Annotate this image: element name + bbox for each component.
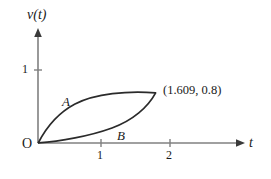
y-axis-label: v(t) xyxy=(27,8,46,22)
x-axis-label: t xyxy=(249,136,253,150)
figure-container: v(t) t O 1 1 2 A B (1.609, 0.8) xyxy=(0,0,271,179)
y-axis xyxy=(34,28,42,143)
y-axis-arrow-icon xyxy=(34,28,42,37)
y-tick-label-1: 1 xyxy=(22,63,28,75)
plot-svg xyxy=(0,0,271,179)
x-axis xyxy=(38,139,245,147)
curve-a xyxy=(39,92,156,142)
point-annotation: (1.609, 0.8) xyxy=(163,84,221,97)
origin-label: O xyxy=(22,137,32,151)
curve-label-b: B xyxy=(117,129,125,142)
x-axis-arrow-icon xyxy=(236,139,245,147)
curve-label-a: A xyxy=(62,95,70,108)
x-tick-label-2: 2 xyxy=(166,149,172,161)
x-tick-label-1: 1 xyxy=(97,149,103,161)
